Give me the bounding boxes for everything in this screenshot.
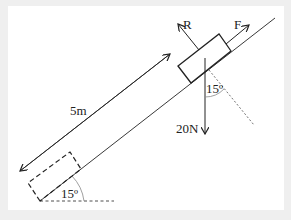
incline-angle-label: 15º [61,186,78,201]
distance-label: 5m [70,103,87,118]
inclined-plane-diagram: 15º 5m R F 20N 15º [0,0,291,220]
perpendicular-reference-line [209,70,254,125]
applied-force-label: F [234,17,241,32]
normal-force-label: R [183,17,192,32]
distance-arrow-head-top [20,54,170,171]
weight-angle-label: 15º [206,81,223,96]
weight-label: 20N [176,121,199,136]
